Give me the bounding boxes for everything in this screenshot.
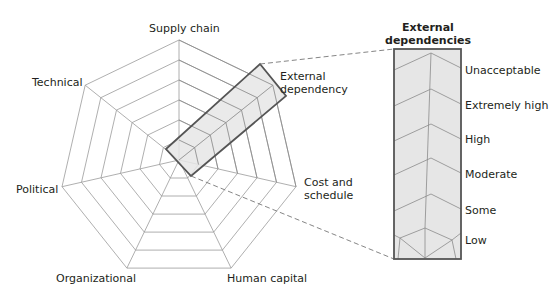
axis-label-supply-chain: Supply chain	[149, 22, 220, 35]
panel-title-line1: External	[394, 21, 462, 34]
axis-label-external-dependency-1: External	[280, 70, 326, 83]
axis-label-human-capital: Human capital	[227, 272, 307, 285]
axis-label-organizational: Organizational	[56, 272, 136, 285]
level-some: Some	[465, 204, 496, 217]
panel-title-line2: dependencies	[384, 34, 472, 47]
detail-panel	[394, 49, 461, 259]
level-moderate: Moderate	[465, 168, 517, 181]
radar-axis	[62, 160, 179, 187]
level-low: Low	[465, 234, 487, 247]
level-high: High	[465, 133, 490, 146]
axis-label-technical: Technical	[32, 76, 83, 89]
level-unacceptable: Unacceptable	[465, 64, 540, 77]
axis-label-external-dependency-2: dependency	[280, 83, 348, 96]
axis-label-cost-1: Cost and	[304, 176, 353, 189]
level-extremely-high: Extremely high	[465, 99, 548, 112]
axis-label-cost-2: schedule	[304, 189, 353, 202]
axis-label-political: Political	[16, 183, 58, 196]
